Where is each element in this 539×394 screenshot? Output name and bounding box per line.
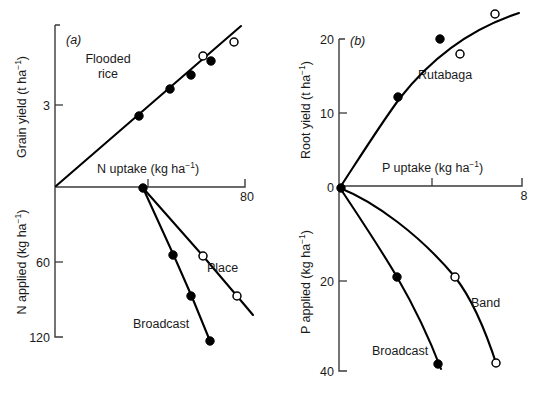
panel-b-lower-point-filled [393, 273, 401, 281]
panel-b-point-filled [436, 35, 444, 43]
panel-a-point-filled [207, 57, 215, 65]
panel-b-series-label-band: Band [471, 296, 500, 310]
panel-a-upper-ylabel: Grain yield (t ha−1) [13, 56, 29, 158]
panel-b-upper-ylabel-close: ) [299, 61, 313, 65]
panel-a-lower-point-filled [187, 292, 195, 300]
panel-a-lower-point-filled [206, 337, 214, 345]
figure-container: 3 Grain yield (t ha−1) (a) Flooded rice … [0, 0, 539, 394]
panel-a-upper-ylabel-close: ) [15, 56, 29, 60]
panel-b-ytick-0-label: 0 [327, 181, 334, 195]
panel-a-ytick-3-label: 3 [43, 99, 50, 113]
panel-a-crop-label-line2: rice [98, 67, 118, 81]
panel-b-point-open [456, 50, 464, 58]
panel-a-upper-y-axis [55, 25, 60, 187]
panel-b-xtick-8-label: 8 [521, 189, 528, 203]
panel-a-lower-point-open [199, 252, 207, 260]
panel-b-x-axis [339, 178, 522, 186]
panel-a-xlabel-main: N uptake (kg ha [97, 162, 185, 176]
panel-b-xlabel-close: ) [479, 161, 483, 175]
panel-a-point-filled [135, 112, 143, 120]
panel-a-lower-ylabel: N applied (kg ha−1) [13, 210, 29, 315]
panel-b-series-label-broadcast: Broadcast [372, 344, 429, 358]
panel-b-upper-ylabel-sup: −1 [297, 65, 307, 75]
panel-a-id: (a) [66, 33, 81, 47]
svg-text:P applied (kg ha−1): P applied (kg ha−1) [297, 230, 313, 334]
panel-a-xtick-80-label: 80 [240, 190, 254, 204]
panel-a-lower-point-open [233, 292, 241, 300]
panel-b-lower-ylabel-sup: −1 [297, 234, 307, 244]
panel-a-series-label-broadcast: Broadcast [133, 317, 190, 331]
panel-a-lower-ylabel-sup: −1 [13, 213, 23, 223]
panel-a-xlabel-sup: −1 [185, 160, 195, 170]
panel-b-lower-y-axis [339, 186, 347, 371]
panel-b-band-curve [340, 188, 497, 366]
panel-a-x-axis [55, 179, 245, 187]
panel-b-upper-ylabel-main: Root yield (t ha [299, 75, 313, 159]
panel-a-xlabel: N uptake (kg ha−1) [97, 160, 199, 176]
panel-b-ytick-lower-40-label: 40 [320, 365, 334, 379]
panel-b-origin-point [337, 184, 345, 192]
panel-b-lower-ylabel: P applied (kg ha−1) [297, 230, 313, 334]
panel-b-lower-point-filled [434, 360, 442, 368]
panel-a-upper-ylabel-main: Grain yield (t ha [15, 70, 29, 158]
panel-b-upper-ylabel: Root yield (t ha−1) [297, 61, 313, 159]
svg-text:Grain yield (t ha−1): Grain yield (t ha−1) [13, 56, 29, 158]
panel-b-point-filled [394, 93, 402, 101]
panel-a-point-filled [166, 85, 174, 93]
panel-a-point-filled [187, 71, 195, 79]
panel-b-ytick-10-label: 10 [320, 107, 334, 121]
panel-b-lower-ylabel-main: P applied (kg ha [299, 244, 313, 334]
panel-a-upper-ylabel-sup: −1 [13, 60, 23, 70]
panel-a-point-open [199, 52, 207, 60]
panel-a-origin-point [139, 184, 147, 192]
panel-a-lower-point-filled [169, 251, 177, 259]
panel-b-id: (b) [350, 34, 365, 48]
panel-a-crop-label-line1: Flooded [85, 52, 130, 66]
panel-a-point-open [230, 38, 238, 46]
panel-b-lower-ylabel-close: ) [299, 230, 313, 234]
panel-b-xlabel: P uptake (kg ha−1) [382, 159, 483, 175]
svg-text:N applied (kg ha−1): N applied (kg ha−1) [13, 210, 29, 315]
panel-b-lower-point-open [492, 359, 500, 367]
panel-b-lower-point-open [451, 273, 459, 281]
svg-text:Root yield (t ha−1): Root yield (t ha−1) [297, 61, 313, 159]
panel-b-point-open [491, 10, 499, 18]
panel-b-broadcast-curve [340, 188, 441, 369]
panel-b-ytick-lower-20-label: 20 [320, 275, 334, 289]
panel-a-lower-ylabel-close: ) [15, 210, 29, 214]
figure-svg: 3 Grain yield (t ha−1) (a) Flooded rice … [0, 0, 539, 394]
panel-a-series-label-place: Place [207, 261, 238, 275]
panel-a-ytick-120-label: 120 [29, 331, 50, 345]
panel-b-xlabel-main: P uptake (kg ha [382, 161, 469, 175]
panel-a-lower-ylabel-main: N applied (kg ha [15, 223, 29, 314]
panel-a-ytick-60-label: 60 [36, 256, 50, 270]
panel-b-ytick-20-label: 20 [320, 33, 334, 47]
panel-b-xlabel-sup: −1 [469, 159, 479, 169]
panel-a-xlabel-close: ) [195, 162, 199, 176]
